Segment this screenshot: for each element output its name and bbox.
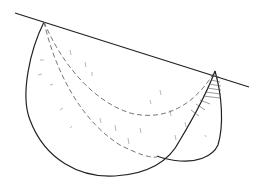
- diagram-canvas: Two overlapping lobe shapes hanging from…: [0, 0, 263, 193]
- large-lobe: [26, 22, 215, 176]
- lobes-diagram: [0, 0, 263, 193]
- dashed-arc-lower: [44, 22, 157, 157]
- stipple-marks: [38, 50, 206, 144]
- hatching: [191, 76, 221, 116]
